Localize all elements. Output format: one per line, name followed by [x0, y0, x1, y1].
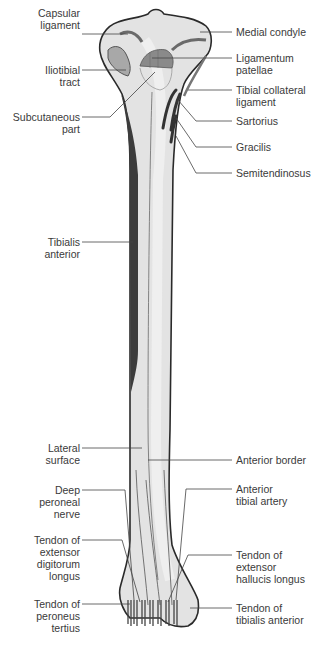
- label-tibialis-anterior: Tibialis anterior: [44, 236, 80, 260]
- label-anterior-border: Anterior border: [236, 454, 306, 466]
- label-subcutaneous-part: Subcutaneous part: [13, 111, 80, 135]
- label-anterior-tibial-artery: Anterior tibial artery: [236, 483, 287, 507]
- label-iliotibial-tract: Iliotibial tract: [45, 64, 80, 88]
- label-deep-peroneal-nerve: Deep peroneal nerve: [39, 484, 80, 520]
- label-sartorius: Sartorius: [236, 115, 278, 127]
- label-gracilis: Gracilis: [236, 141, 271, 153]
- label-tendon-extensor-digitorum-longus: Tendon of extensor digitorum longus: [34, 534, 80, 582]
- label-tendon-tibialis-anterior: Tendon of tibialis anterior: [236, 602, 304, 626]
- label-semitendinosus: Semitendinosus: [236, 167, 311, 179]
- label-medial-condyle: Medial condyle: [236, 26, 306, 38]
- label-tibial-collateral-ligament: Tibial collateral ligament: [236, 84, 306, 108]
- label-ligamentum-patellae: Ligamentum patellae: [236, 52, 294, 76]
- tibia-diagram: Capsular ligament Iliotibial tract Subcu…: [0, 0, 324, 645]
- label-tendon-peroneus-tertius: Tendon of peroneus tertius: [34, 598, 80, 634]
- label-lateral-surface: Lateral surface: [46, 442, 80, 466]
- label-capsular-ligament: Capsular ligament: [38, 7, 80, 31]
- label-tendon-extensor-hallucis-longus: Tendon of extensor hallucis longus: [236, 549, 305, 585]
